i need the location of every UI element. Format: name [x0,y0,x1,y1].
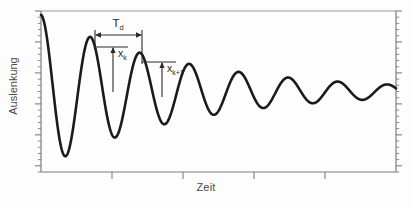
plot-canvas: Td xk xk+1 [0,0,412,207]
period-label-subscript: d [119,23,123,32]
axis-frame [41,11,396,172]
y-axis-label: Auslenkung [7,57,19,115]
amplitude-k1-label-subscript: k+1 [172,69,184,76]
amplitude-k-label: xk [118,47,127,61]
amplitude-k1-arrowhead [159,62,164,68]
y-axis-label-wrap: Auslenkung [2,0,24,172]
x-axis-label: Zeit [0,181,412,193]
period-arrowhead-left [95,32,101,38]
damped-oscillation-figure: Td xk xk+1 Auslenkung Zeit [0,0,412,207]
amplitude-k-arrowhead [110,47,115,53]
period-label: Td [112,17,123,32]
y-axis-ticks-right [396,11,402,172]
x-axis-ticks [112,172,325,179]
damped-oscillation-curve [41,15,396,156]
period-label-base: T [112,17,119,29]
y-axis-ticks-left [35,11,41,172]
amplitude-k-label-subscript: k [123,54,127,61]
period-arrowhead-right [136,32,142,38]
amplitude-k-plus-1-label: xk+1 [167,62,184,76]
